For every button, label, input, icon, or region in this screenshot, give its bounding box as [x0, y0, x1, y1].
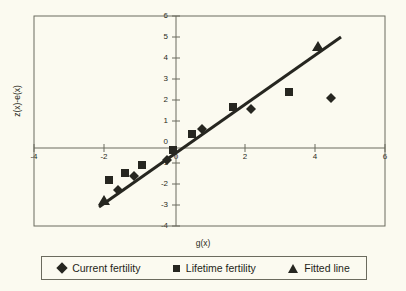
square-marker: [229, 103, 237, 111]
chart-legend: Current fertility Lifetime fertility Fit…: [41, 256, 367, 280]
legend-item-current-fertility[interactable]: Current fertility: [58, 262, 140, 274]
square-marker: [285, 88, 293, 96]
square-marker: [188, 130, 196, 138]
legend-label-fitted-line: Fitted line: [304, 262, 350, 274]
chart-container: z(x)-e(x) 6 5 4 3 2 1 0 -1 -2 -3 -4 -4 -…: [0, 0, 406, 291]
x-axis-title: g(x): [0, 238, 406, 248]
diamond-marker: [246, 104, 256, 114]
legend-item-fitted-line[interactable]: Fitted line: [288, 262, 350, 274]
diamond-marker: [326, 93, 336, 103]
plot-frame: [34, 16, 385, 226]
current-fertility-series: [113, 93, 336, 195]
square-marker-icon: [173, 265, 180, 272]
diamond-marker: [113, 185, 123, 195]
square-marker: [138, 161, 146, 169]
diamond-marker-icon: [57, 262, 68, 273]
fitted-line: [99, 37, 341, 207]
square-marker: [121, 169, 129, 177]
square-marker: [105, 176, 113, 184]
legend-label-current-fertility: Current fertility: [72, 262, 140, 274]
triangle-marker-icon: [288, 264, 298, 273]
legend-item-lifetime-fertility[interactable]: Lifetime fertility: [173, 262, 256, 274]
legend-label-lifetime-fertility: Lifetime fertility: [186, 262, 256, 274]
triangle-marker: [312, 41, 324, 51]
square-marker: [169, 146, 177, 154]
